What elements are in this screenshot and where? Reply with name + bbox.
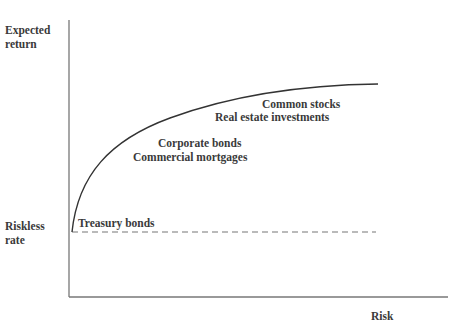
- common-stocks-label: Common stocks: [262, 97, 340, 111]
- riskless-label-line1: Riskless: [5, 219, 45, 233]
- x-axis-label: Risk: [371, 309, 393, 323]
- y-axis-label-line1: Expected: [5, 23, 50, 37]
- commercial-mortgages-label: Commercial mortgages: [133, 150, 247, 164]
- real-estate-label: Real estate investments: [215, 110, 329, 124]
- corporate-bonds-label: Corporate bonds: [158, 136, 241, 150]
- riskless-rate-label: Riskless rate: [5, 219, 45, 247]
- y-axis-label: Expected return: [5, 23, 50, 51]
- y-axis-label-line2: return: [5, 37, 50, 51]
- treasury-bonds-label: Treasury bonds: [78, 216, 155, 230]
- risk-return-diagram: [0, 0, 471, 332]
- riskless-label-line2: rate: [5, 233, 45, 247]
